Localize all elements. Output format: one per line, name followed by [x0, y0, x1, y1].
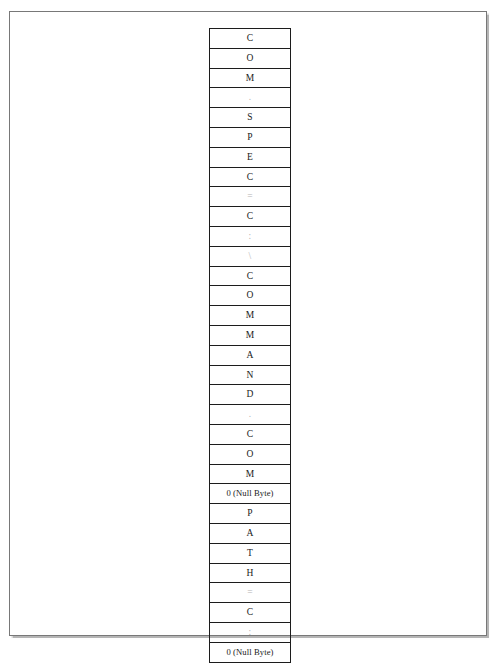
byte-row: O: [210, 286, 291, 306]
byte-row: C: [210, 266, 291, 286]
byte-row: D: [210, 385, 291, 405]
byte-cell: N: [210, 365, 291, 385]
byte-row: C: [210, 207, 291, 227]
byte-row: :: [210, 226, 291, 246]
byte-cell: P: [210, 127, 291, 147]
byte-row: P: [210, 127, 291, 147]
byte-cell: :: [210, 622, 291, 642]
byte-cell-null: 0 (Null Byte): [210, 484, 291, 504]
byte-cell: C: [210, 207, 291, 227]
byte-row: .: [210, 88, 291, 108]
byte-cell: \: [210, 246, 291, 266]
byte-cell: M: [210, 68, 291, 88]
byte-cell: O: [210, 286, 291, 306]
byte-row: 0 (Null Byte): [210, 484, 291, 504]
byte-row: M: [210, 68, 291, 88]
byte-cell: T: [210, 543, 291, 563]
byte-row: O: [210, 444, 291, 464]
byte-row: P: [210, 504, 291, 524]
byte-cell: H: [210, 563, 291, 583]
byte-cell: M: [210, 306, 291, 326]
byte-row: \: [210, 246, 291, 266]
byte-cell: C: [210, 167, 291, 187]
byte-row: C: [210, 603, 291, 623]
byte-row: H: [210, 563, 291, 583]
byte-layout-table: COM.SPEC=C:\COMMAND.COM0 (Null Byte)PATH…: [209, 28, 291, 663]
byte-layout-rows: COM.SPEC=C:\COMMAND.COM0 (Null Byte)PATH…: [210, 29, 291, 663]
byte-cell: .: [210, 88, 291, 108]
byte-cell: C: [210, 424, 291, 444]
byte-row: M: [210, 464, 291, 484]
byte-cell: O: [210, 48, 291, 68]
byte-cell: C: [210, 603, 291, 623]
byte-cell: D: [210, 385, 291, 405]
byte-row: N: [210, 365, 291, 385]
byte-cell: C: [210, 29, 291, 49]
byte-cell: S: [210, 108, 291, 128]
byte-row: .: [210, 405, 291, 425]
byte-row: A: [210, 523, 291, 543]
byte-cell: A: [210, 523, 291, 543]
scanned-page-sheet: COM.SPEC=C:\COMMAND.COM0 (Null Byte)PATH…: [9, 11, 487, 636]
byte-cell: P: [210, 504, 291, 524]
byte-row: C: [210, 29, 291, 49]
byte-row: =: [210, 187, 291, 207]
byte-cell: E: [210, 147, 291, 167]
byte-cell: O: [210, 444, 291, 464]
byte-row: M: [210, 325, 291, 345]
byte-row: =: [210, 583, 291, 603]
byte-row: C: [210, 167, 291, 187]
byte-cell: =: [210, 187, 291, 207]
byte-cell: M: [210, 464, 291, 484]
byte-row: E: [210, 147, 291, 167]
byte-row: C: [210, 424, 291, 444]
byte-cell: .: [210, 405, 291, 425]
byte-row: T: [210, 543, 291, 563]
byte-row: O: [210, 48, 291, 68]
byte-cell: A: [210, 345, 291, 365]
byte-cell: M: [210, 325, 291, 345]
byte-row: M: [210, 306, 291, 326]
byte-row: S: [210, 108, 291, 128]
byte-cell: =: [210, 583, 291, 603]
byte-cell: :: [210, 226, 291, 246]
byte-cell-null: 0 (Null Byte): [210, 642, 291, 662]
byte-row: A: [210, 345, 291, 365]
byte-row: :: [210, 622, 291, 642]
byte-cell: C: [210, 266, 291, 286]
byte-row: 0 (Null Byte): [210, 642, 291, 662]
